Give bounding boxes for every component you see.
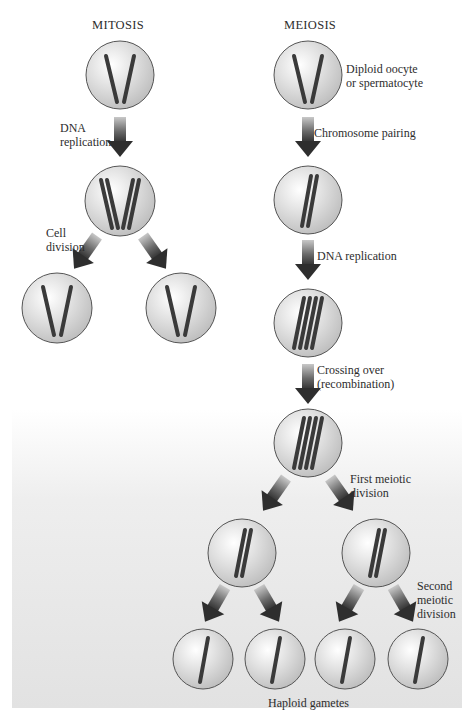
haploid-gametes-label: Haploid gametes: [268, 696, 349, 710]
meiosis-secondary-cell-1: [208, 519, 276, 587]
meiosis-step-first-division: First meiotic division: [350, 472, 411, 500]
mitosis-daughter-cell-1: [22, 273, 92, 343]
meiosis-step-dna-replication: DNA replication: [317, 249, 397, 263]
meiosis-start-label: Diploid oocyte or spermatocyte: [346, 62, 423, 90]
arrow-down-left-icon: [328, 581, 371, 629]
mitosis-parent-cell: [86, 41, 154, 109]
arrow-down-right-icon: [248, 581, 291, 629]
meiosis-recombined-cell: [274, 409, 342, 477]
meiosis-secondary-cell-2: [342, 519, 410, 587]
arrow-down-left-icon: [252, 471, 296, 519]
meiosis-diploid-cell: [274, 41, 342, 109]
mitosis-step-cell-division: Cell division: [46, 226, 85, 254]
meiosis-step-crossing-over: Crossing over (recombination): [317, 363, 394, 391]
gamete-cell-4: [388, 629, 448, 689]
meiosis-replicated-cell: [274, 289, 342, 357]
meiosis-paired-cell: [274, 166, 342, 234]
mitosis-replicated-cell: [85, 166, 155, 236]
gamete-cell-2: [245, 629, 305, 689]
meiosis-title: MEIOSIS: [284, 18, 336, 32]
mitosis-step-dna-replication: DNA replication: [60, 121, 111, 149]
mitosis-title: MITOSIS: [92, 18, 144, 32]
meiosis-step-second-division: Second meiotic division: [417, 579, 456, 621]
gamete-cell-3: [315, 629, 375, 689]
arrow-down-left-icon: [194, 581, 237, 629]
mitosis-daughter-cell-2: [146, 273, 216, 343]
meiosis-step-chromosome-pairing: Chromosome pairing: [314, 126, 416, 140]
gamete-cell-1: [173, 629, 233, 689]
arrow-down-right-icon: [132, 229, 176, 277]
cell-division-diagram: [0, 0, 473, 724]
